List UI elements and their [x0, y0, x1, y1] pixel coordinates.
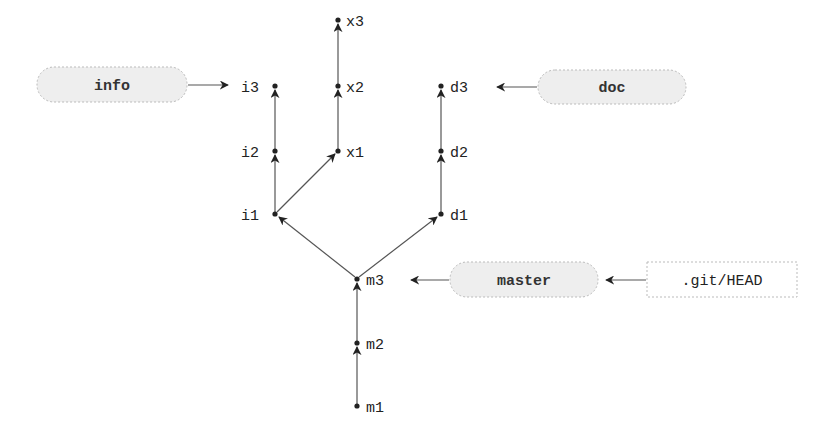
commit-i3[interactable]: i3 — [241, 80, 278, 97]
commit-label: x1 — [346, 145, 364, 162]
commit-dot — [438, 148, 443, 153]
edge-i1-x1 — [277, 154, 335, 212]
git-branch-diagram: m1 m2 m3 i1 i2 i3 x1 x2 — [0, 0, 834, 439]
commit-label: x2 — [346, 80, 364, 97]
commit-dot — [438, 211, 443, 216]
commit-dot — [354, 340, 359, 345]
branch-ref-doc[interactable]: doc — [538, 70, 686, 104]
commit-m2[interactable]: m2 — [354, 337, 384, 354]
commit-dot — [354, 403, 359, 408]
ref-pointer-arrows — [188, 85, 646, 280]
edge-m3-i1 — [279, 217, 355, 277]
branch-ref-master[interactable]: master — [450, 262, 598, 297]
commit-dot — [272, 148, 277, 153]
commit-label: d2 — [450, 145, 468, 162]
commit-dot — [335, 83, 340, 88]
commit-dot — [335, 17, 340, 22]
commit-dot — [272, 83, 277, 88]
ref-label: doc — [598, 80, 625, 97]
commit-x3[interactable]: x3 — [335, 14, 364, 31]
commit-label: m1 — [366, 400, 384, 417]
commit-d3[interactable]: d3 — [438, 80, 468, 97]
head-ref[interactable]: .git/HEAD — [647, 262, 797, 297]
commit-label: x3 — [346, 14, 364, 31]
commit-x1[interactable]: x1 — [335, 145, 364, 162]
ref-label: master — [497, 273, 551, 290]
commit-i1[interactable]: i1 — [241, 208, 278, 225]
commit-d1[interactable]: d1 — [438, 208, 468, 225]
commit-dot — [438, 83, 443, 88]
head-label: .git/HEAD — [681, 273, 762, 290]
branch-ref-info[interactable]: info — [37, 67, 187, 102]
commit-label: m2 — [366, 337, 384, 354]
commit-label: i1 — [241, 208, 259, 225]
commit-d2[interactable]: d2 — [438, 145, 468, 162]
ref-label: info — [94, 78, 130, 95]
commit-label: d1 — [450, 208, 468, 225]
commit-label: m3 — [366, 273, 384, 290]
commit-m3[interactable]: m3 — [354, 273, 384, 290]
commit-dot — [272, 211, 277, 216]
commit-x2[interactable]: x2 — [335, 80, 364, 97]
commit-i2[interactable]: i2 — [241, 145, 278, 162]
commit-nodes: m1 m2 m3 i1 i2 i3 x1 x2 — [241, 14, 468, 417]
commit-label: i2 — [241, 145, 259, 162]
edge-m3-d1 — [359, 217, 437, 277]
commit-m1[interactable]: m1 — [354, 400, 384, 417]
commit-dot — [354, 276, 359, 281]
commit-label: d3 — [450, 80, 468, 97]
commit-label: i3 — [241, 80, 259, 97]
commit-dot — [335, 148, 340, 153]
